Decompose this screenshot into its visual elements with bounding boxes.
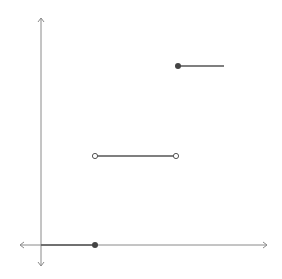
middle-step-right-open-dot-icon xyxy=(173,153,178,158)
axes xyxy=(20,18,267,266)
middle-step-left-open-dot-icon xyxy=(92,153,97,158)
lower-step-right-closed-dot-icon xyxy=(92,242,98,248)
upper-step-left-closed-dot-icon xyxy=(175,63,181,69)
step-function-graph xyxy=(0,0,282,279)
segments xyxy=(41,63,224,248)
